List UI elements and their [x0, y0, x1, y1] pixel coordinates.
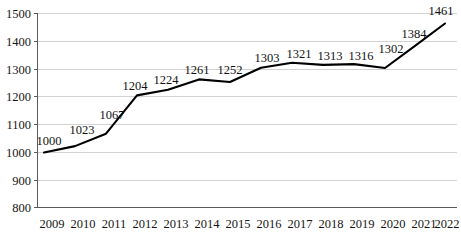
y-tick-label-1300: 1300 [6, 63, 31, 77]
x-tick-label-2014: 2014 [195, 217, 221, 231]
x-tick-label-2011: 2011 [102, 217, 127, 231]
chart-canvas: 1500 1400 1300 1200 1100 1000 900 800 20… [0, 0, 461, 239]
line-chart: 1500 1400 1300 1200 1100 1000 900 800 20… [0, 0, 461, 239]
data-label-2021: 1384 [402, 27, 428, 41]
data-label-2010: 1023 [70, 123, 95, 137]
data-label-2009: 1000 [37, 134, 62, 148]
gridlines [38, 14, 457, 181]
x-tick-label-2017: 2017 [288, 217, 313, 231]
y-tick-label-1200: 1200 [6, 90, 31, 104]
data-label-2016: 1303 [255, 51, 280, 65]
data-label-2011: 1067 [100, 108, 125, 122]
x-tick-label-2009: 2009 [40, 217, 65, 231]
y-tick-label-1000: 1000 [6, 146, 31, 160]
data-label-2019: 1316 [349, 49, 374, 63]
y-tick-label-1100: 1100 [6, 118, 31, 132]
data-label-2013: 1224 [154, 73, 180, 87]
data-label-2015: 1252 [218, 63, 243, 77]
data-label-2012: 1204 [123, 79, 149, 93]
x-tick-label-2012: 2012 [133, 217, 158, 231]
x-axis-tick-labels: 2009 2010 2011 2012 2013 2014 2015 2016 … [40, 217, 460, 231]
y-tick-label-900: 900 [12, 174, 31, 188]
x-tick-label-2016: 2016 [257, 217, 282, 231]
y-tick-label-800: 800 [12, 201, 31, 215]
y-axis-tick-labels: 1500 1400 1300 1200 1100 1000 900 800 [6, 7, 31, 215]
x-tick-label-2021: 2021 [412, 217, 437, 231]
x-tick-label-2018: 2018 [319, 217, 344, 231]
data-label-2020: 1302 [379, 42, 404, 56]
x-tick-label-2020: 2020 [381, 217, 406, 231]
x-tick-label-2010: 2010 [71, 217, 96, 231]
x-tick-label-2013: 2013 [164, 217, 189, 231]
x-tick-label-2019: 2019 [350, 217, 375, 231]
x-tick-label-2015: 2015 [226, 217, 251, 231]
data-label-2018: 1313 [318, 49, 343, 63]
x-tick-label-2022: 2022 [435, 217, 460, 231]
data-label-2017: 1321 [287, 47, 312, 61]
data-label-2014: 1261 [185, 63, 210, 77]
data-label-2022: 1461 [429, 4, 454, 18]
y-tick-label-1400: 1400 [6, 35, 31, 49]
y-tick-label-1500: 1500 [6, 7, 31, 21]
